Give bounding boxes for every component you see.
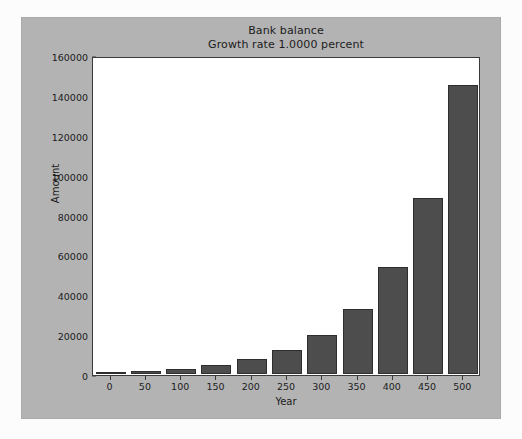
figure-panel: Bank balance Growth rate 1.0000 percent … [22, 18, 500, 418]
x-tick-mark [180, 376, 181, 380]
bar [96, 372, 126, 374]
chart-subtitle: Growth rate 1.0000 percent [92, 38, 480, 52]
x-tick-mark [462, 376, 463, 380]
y-tick-label: 140000 [32, 91, 88, 102]
bar [448, 85, 478, 374]
x-tick-label: 300 [301, 381, 341, 392]
bar-series [94, 59, 478, 374]
y-tick-label: 80000 [32, 211, 88, 222]
x-axis-tick-labels: 050100150200250300350400450500 [92, 376, 480, 396]
bar [307, 335, 337, 374]
y-tick-label: 20000 [32, 331, 88, 342]
x-tick-mark [321, 376, 322, 380]
y-axis-tick-labels: 0200004000060000800001000001200001400001… [26, 57, 88, 376]
chart-title-block: Bank balance Growth rate 1.0000 percent [92, 24, 480, 52]
bar [166, 369, 196, 374]
x-tick-mark [110, 376, 111, 380]
x-tick-label: 350 [337, 381, 377, 392]
bar [201, 365, 231, 374]
x-axis-label: Year [92, 396, 480, 407]
y-tick-label: 0 [32, 371, 88, 382]
bar [237, 359, 267, 374]
bar [378, 267, 408, 374]
bar [131, 371, 161, 374]
x-tick-label: 200 [231, 381, 271, 392]
x-tick-label: 250 [266, 381, 306, 392]
chart-title: Bank balance [92, 24, 480, 38]
x-tick-mark [145, 376, 146, 380]
x-tick-mark [215, 376, 216, 380]
x-tick-mark [427, 376, 428, 380]
bar [272, 350, 302, 374]
bar [343, 309, 373, 374]
x-tick-label: 0 [90, 381, 130, 392]
x-tick-mark [357, 376, 358, 380]
x-tick-label: 150 [195, 381, 235, 392]
plot-area [92, 57, 480, 376]
x-tick-mark [251, 376, 252, 380]
x-tick-label: 50 [125, 381, 165, 392]
x-tick-mark [392, 376, 393, 380]
x-tick-mark [286, 376, 287, 380]
x-tick-label: 450 [407, 381, 447, 392]
x-tick-label: 400 [372, 381, 412, 392]
x-tick-label: 500 [442, 381, 482, 392]
y-tick-label: 120000 [32, 131, 88, 142]
bar [413, 198, 443, 374]
y-tick-label: 40000 [32, 291, 88, 302]
x-tick-label: 100 [160, 381, 200, 392]
y-tick-label: 160000 [32, 52, 88, 63]
screenshot-root: Bank balance Growth rate 1.0000 percent … [0, 0, 522, 439]
y-tick-label: 100000 [32, 171, 88, 182]
y-tick-label: 60000 [32, 251, 88, 262]
